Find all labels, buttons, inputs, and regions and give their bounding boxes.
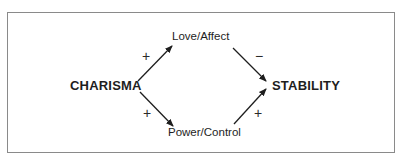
node-love-affect: Love/Affect <box>172 31 229 43</box>
edge-sign-power-control-stability: + <box>254 106 262 120</box>
node-charisma: CHARISMA <box>70 79 142 92</box>
edge-sign-charisma-power-control: + <box>143 106 151 120</box>
edge-sign-love-affect-stability: − <box>255 49 263 63</box>
arrows-layer <box>0 0 404 166</box>
node-stability: STABILITY <box>272 79 340 92</box>
edge-sign-charisma-love-affect: + <box>142 49 150 63</box>
node-power-control: Power/Control <box>168 127 241 139</box>
